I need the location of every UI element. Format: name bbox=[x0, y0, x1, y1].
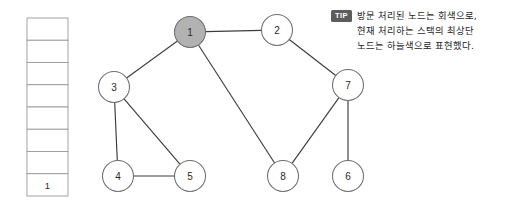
tip-badge: TIP bbox=[331, 10, 352, 23]
graph-edge bbox=[115, 102, 118, 160]
graph-edge bbox=[127, 41, 178, 78]
dfs-stack: 1 bbox=[27, 18, 68, 196]
graph-node-label-2: 2 bbox=[274, 25, 280, 36]
tip-line-2: 현재 처리하는 스택의 최상단 bbox=[357, 23, 507, 38]
stack-cell bbox=[27, 63, 68, 85]
graph-edges bbox=[115, 30, 348, 176]
stack-cell bbox=[27, 18, 68, 40]
graph-node-label-1: 1 bbox=[187, 27, 193, 38]
stack-cell bbox=[27, 129, 68, 151]
graph-edge bbox=[289, 39, 335, 75]
tip-first-row: TIP 방문 처리된 노드는 회색으로, bbox=[331, 8, 507, 23]
tip-annotation: TIP 방문 처리된 노드는 회색으로, 현재 처리하는 스택의 최상단 노드는… bbox=[331, 8, 507, 53]
tip-line-3: 노드는 하늘색으로 표현했다. bbox=[357, 38, 507, 53]
stack-cell bbox=[27, 85, 68, 107]
graph-node-label-4: 4 bbox=[115, 171, 121, 182]
tip-line-1: 방문 처리된 노드는 회색으로, bbox=[357, 8, 477, 23]
graph-edge bbox=[124, 99, 180, 164]
tip-remaining-lines: 현재 처리하는 스택의 최상단 노드는 하늘색으로 표현했다. bbox=[357, 23, 507, 53]
dfs-figure: 1 12374586 TIP 방문 처리된 노드는 회색으로, 현재 처리하는 … bbox=[0, 0, 509, 202]
graph-nodes: 12374586 bbox=[99, 15, 364, 192]
graph-edge bbox=[198, 45, 274, 163]
stack-cell bbox=[27, 107, 68, 129]
graph-edge bbox=[205, 30, 261, 31]
graph-node-label-3: 3 bbox=[111, 82, 117, 93]
graph-node-label-5: 5 bbox=[187, 171, 193, 182]
stack-cell-value: 1 bbox=[45, 180, 50, 191]
graph-node-label-8: 8 bbox=[280, 171, 286, 182]
graph-node-label-6: 6 bbox=[345, 171, 351, 182]
graph-edge bbox=[292, 98, 339, 164]
stack-cell bbox=[27, 152, 68, 174]
stack-cell bbox=[27, 40, 68, 62]
graph-node-label-7: 7 bbox=[345, 80, 351, 91]
